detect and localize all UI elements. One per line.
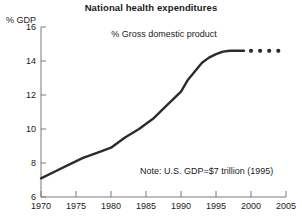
chart-plot-svg	[0, 0, 302, 220]
y-axis-ticks	[41, 27, 46, 197]
data-series-projected	[249, 49, 281, 53]
x-axis-ticks	[41, 191, 286, 197]
chart-container: National health expenditures % Gross dom…	[0, 0, 302, 220]
data-series-actual	[41, 51, 244, 179]
projection-dot	[249, 49, 253, 53]
projection-dot	[267, 49, 271, 53]
x-axis	[41, 191, 286, 197]
projection-dot	[258, 49, 262, 53]
projection-dot	[276, 49, 280, 53]
y-axis	[41, 27, 46, 197]
